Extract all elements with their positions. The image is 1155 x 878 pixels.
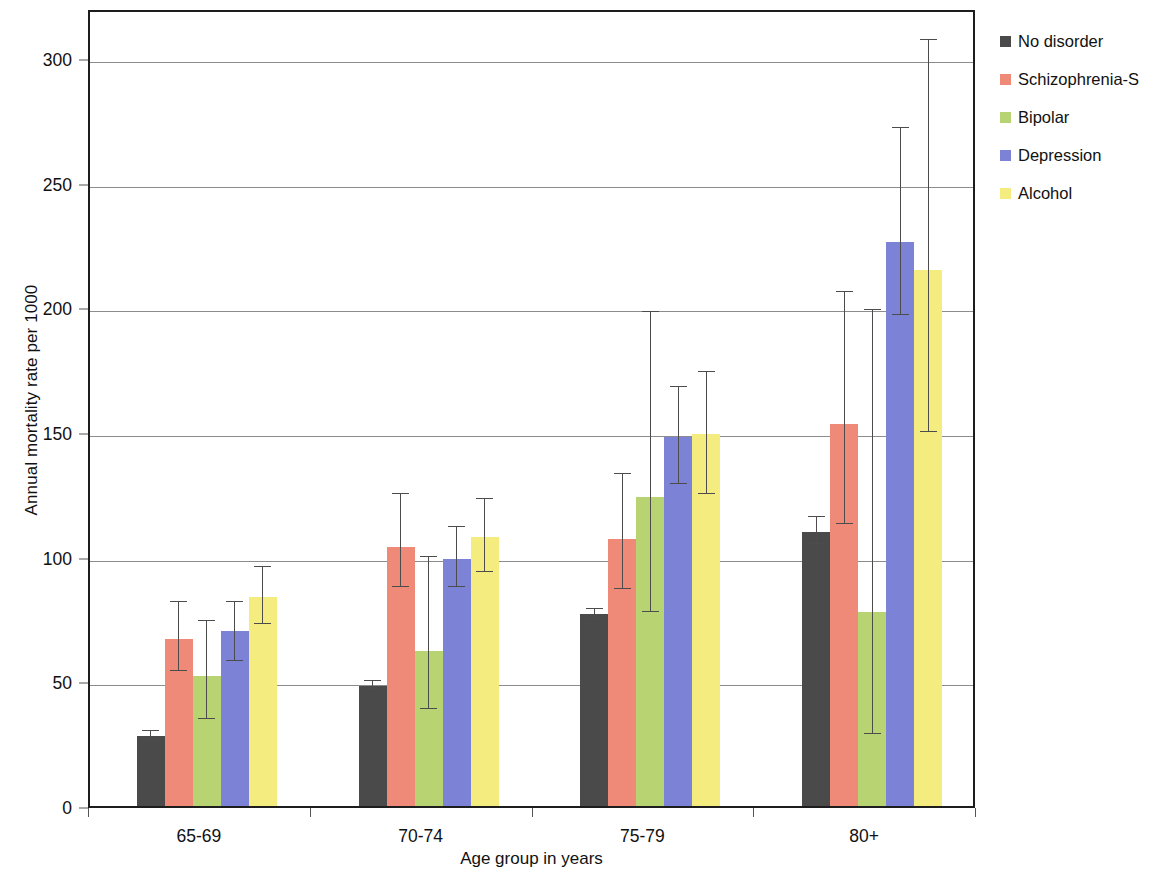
legend-item: Schizophrenia-S [1000, 60, 1155, 98]
error-bar-line [706, 372, 707, 494]
x-axis-title: Age group in years [88, 849, 975, 869]
error-bar-cap-lower [892, 314, 909, 315]
error-bar-cap-upper [142, 730, 159, 731]
error-bar-cap-lower [808, 543, 825, 544]
error-bar [443, 527, 471, 806]
error-bar-cap-lower [864, 733, 881, 734]
x-tick-mark [753, 808, 754, 817]
error-bar-line [900, 128, 901, 315]
legend-swatch-icon [1000, 112, 1011, 123]
error-bar [636, 312, 664, 806]
error-bar-cap-upper [364, 680, 381, 681]
error-bar-cap-upper [198, 620, 215, 621]
y-tick-mark [79, 59, 88, 60]
error-bar-cap-lower [198, 718, 215, 719]
y-tick-label: 250 [43, 174, 72, 195]
error-bar [692, 372, 720, 806]
error-bar-cap-upper [170, 601, 187, 602]
error-bar-cap-lower [586, 618, 603, 619]
error-bar-cap-upper [808, 516, 825, 517]
error-bar [471, 499, 499, 806]
error-bar-cap-lower [364, 688, 381, 689]
legend-item: Alcohol [1000, 174, 1155, 212]
legend-label: Schizophrenia-S [1018, 70, 1139, 89]
error-bar-line [622, 474, 623, 589]
error-bar [858, 310, 886, 806]
error-bar-line [262, 567, 263, 624]
error-bar-cap-lower [448, 586, 465, 587]
error-bar [387, 494, 415, 806]
legend-swatch-icon [1000, 150, 1011, 161]
error-bar-cap-upper [586, 608, 603, 609]
legend-item: Depression [1000, 136, 1155, 174]
legend-swatch-icon [1000, 188, 1011, 199]
y-tick-label: 0 [62, 798, 72, 819]
error-bar [137, 731, 165, 806]
error-bar-line [928, 40, 929, 432]
error-bar-cap-lower [670, 483, 687, 484]
legend-label: Depression [1018, 146, 1101, 165]
error-bar-cap-upper [642, 311, 659, 312]
error-bar [415, 557, 443, 806]
x-tick-label: 65-69 [176, 826, 221, 847]
error-bar-cap-upper [420, 556, 437, 557]
y-tick-label: 200 [43, 299, 72, 320]
bar-group [359, 12, 499, 806]
error-bar [193, 621, 221, 806]
x-tick-mark [310, 808, 311, 817]
error-bar-cap-lower [254, 623, 271, 624]
y-tick-mark [79, 558, 88, 559]
legend-label: Alcohol [1018, 184, 1072, 203]
x-tick-mark [975, 808, 976, 817]
y-tick-label: 300 [43, 49, 72, 70]
error-bar-cap-lower [170, 670, 187, 671]
error-bar-line [234, 602, 235, 662]
error-bar [165, 602, 193, 806]
y-tick-mark [79, 433, 88, 434]
error-bar-cap-upper [254, 566, 271, 567]
error-bar-cap-lower [614, 588, 631, 589]
error-bar-cap-upper [670, 386, 687, 387]
legend-item: Bipolar [1000, 98, 1155, 136]
x-tick-label: 70-74 [398, 826, 443, 847]
x-tick-mark [88, 808, 89, 817]
error-bar [608, 474, 636, 806]
error-bar-cap-upper [226, 601, 243, 602]
error-bar-cap-upper [614, 473, 631, 474]
bar-group [137, 12, 277, 806]
error-bar-cap-lower [142, 740, 159, 741]
legend-swatch-icon [1000, 36, 1011, 47]
error-bar-cap-upper [476, 498, 493, 499]
error-bar-line [816, 517, 817, 544]
error-bar-cap-lower [420, 708, 437, 709]
bar-group [580, 12, 720, 806]
error-bar-line [844, 292, 845, 524]
y-tick-mark [79, 808, 88, 809]
y-tick-label: 100 [43, 548, 72, 569]
error-bar-cap-upper [448, 526, 465, 527]
bar-groups [90, 12, 973, 806]
error-bar-cap-lower [642, 611, 659, 612]
bar-group [802, 12, 942, 806]
error-bar [914, 40, 942, 806]
y-tick-mark [79, 309, 88, 310]
error-bar-cap-lower [698, 493, 715, 494]
y-axis-ticks: 050100150200250300 [0, 0, 88, 878]
error-bar [359, 681, 387, 806]
y-tick-label: 50 [53, 673, 72, 694]
error-bar [886, 128, 914, 806]
plot-area [88, 10, 975, 808]
error-bar-cap-lower [476, 571, 493, 572]
y-tick-label: 150 [43, 423, 72, 444]
error-bar-cap-upper [864, 309, 881, 310]
x-tick-label: 80+ [849, 826, 879, 847]
error-bar-cap-lower [836, 523, 853, 524]
legend-label: No disorder [1018, 32, 1103, 51]
error-bar-line [650, 312, 651, 611]
error-bar-line [484, 499, 485, 571]
error-bar [221, 602, 249, 806]
error-bar-line [428, 557, 429, 709]
y-tick-mark [79, 184, 88, 185]
error-bar [802, 517, 830, 806]
legend-label: Bipolar [1018, 108, 1069, 127]
